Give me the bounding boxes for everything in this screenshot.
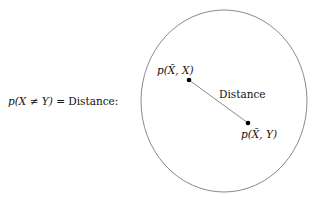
point-label-x-tilde-y: p(X̃, Y) <box>241 128 277 140</box>
equation-eq: = <box>53 95 68 107</box>
point-label-x-tilde-x: p(X̃, X) <box>157 64 194 76</box>
equation-lhs: p(X ≠ Y) <box>8 95 53 107</box>
point-x-tilde-x <box>187 78 192 83</box>
equation-label: p(X ≠ Y) = Distance: <box>8 95 118 107</box>
point-x-tilde-y <box>246 121 251 126</box>
equation-rhs: Distance: <box>68 95 118 107</box>
outer-circle <box>141 10 307 192</box>
segment-distance-label: Distance <box>219 88 266 100</box>
distance-segment <box>189 80 248 123</box>
